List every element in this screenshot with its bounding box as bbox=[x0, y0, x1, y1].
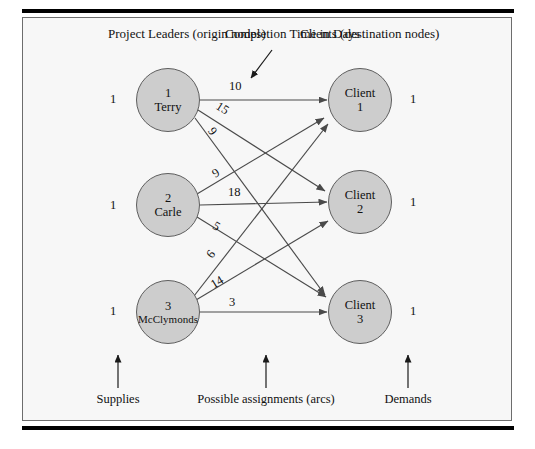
destination-node-client2[interactable]: Client 2 bbox=[328, 170, 392, 234]
supplies-footer-label: Supplies bbox=[96, 392, 139, 406]
completion-time-title: Completion bbox=[225, 26, 286, 41]
demand-value-client1: 1 bbox=[410, 92, 416, 107]
origin-node-terry-name: Terry bbox=[155, 100, 182, 114]
origin-node-mcclymonds-id: 3 bbox=[165, 299, 171, 313]
origin-header-title: Project Leaders bbox=[108, 26, 189, 41]
arcs-footer-subtitle: (arcs) bbox=[306, 392, 334, 406]
arc-label-terry-client1: 10 bbox=[229, 79, 242, 94]
demands-footer-label: Demands bbox=[384, 392, 431, 406]
arcs-footer: Possible assignments (arcs) bbox=[196, 392, 336, 408]
supply-value-terry: 1 bbox=[110, 92, 116, 107]
demands-footer: Demands bbox=[358, 392, 458, 408]
origin-node-carle-id: 2 bbox=[165, 191, 171, 205]
supply-value-carle: 1 bbox=[110, 198, 116, 213]
destination-node-client2-index: 2 bbox=[357, 202, 363, 216]
destination-node-client3-label: Client bbox=[345, 298, 376, 312]
completion-time-pointer bbox=[251, 50, 272, 78]
destination-node-client3-index: 3 bbox=[357, 312, 363, 326]
destination-header: Clients (destination nodes) bbox=[300, 26, 434, 42]
network-arcs-canvas bbox=[0, 0, 535, 449]
arcs-footer-title: Possible assignments bbox=[197, 392, 303, 406]
arc-terry-client3 bbox=[195, 118, 325, 295]
supply-value-mcclymonds: 1 bbox=[110, 304, 116, 319]
supplies-footer: Supplies bbox=[68, 392, 168, 408]
destination-node-client1-label: Client bbox=[345, 86, 376, 100]
arc-label-mcclymonds-client3: 3 bbox=[229, 295, 235, 310]
demand-value-client3: 1 bbox=[410, 304, 416, 319]
origin-node-carle-name: Carle bbox=[154, 205, 181, 219]
origin-node-carle[interactable]: 2 Carle bbox=[136, 173, 200, 237]
origin-node-terry[interactable]: 1 Terry bbox=[136, 68, 200, 132]
origin-node-terry-id: 1 bbox=[165, 86, 171, 100]
arc-label-carle-client2: 18 bbox=[228, 185, 241, 200]
destination-node-client2-label: Client bbox=[345, 188, 376, 202]
origin-header: Project Leaders (origin nodes) bbox=[108, 26, 228, 42]
demand-value-client2: 1 bbox=[410, 195, 416, 210]
origin-node-mcclymonds[interactable]: 3 McClymonds bbox=[136, 280, 200, 344]
destination-node-client3[interactable]: Client 3 bbox=[328, 280, 392, 344]
destination-header-subtitle: (destination nodes) bbox=[340, 26, 439, 41]
destination-node-client1[interactable]: Client 1 bbox=[328, 68, 392, 132]
destination-node-client1-index: 1 bbox=[357, 100, 363, 114]
destination-header-title: Clients bbox=[300, 26, 337, 41]
arc-carle-client2 bbox=[200, 202, 327, 205]
origin-node-mcclymonds-name: McClymonds bbox=[138, 313, 198, 325]
assignment-network-figure: Project Leaders (origin nodes) Completio… bbox=[0, 0, 535, 449]
